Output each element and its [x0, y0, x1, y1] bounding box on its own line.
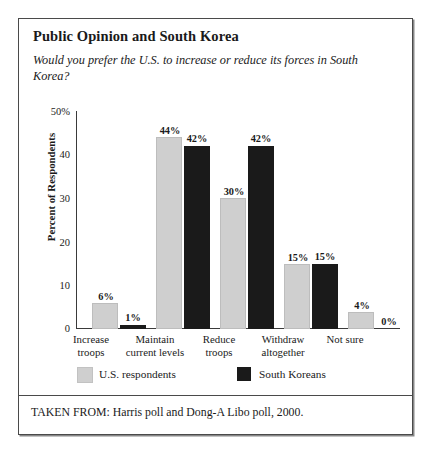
y-tick-label-30: 30	[30, 194, 70, 204]
bar-us-reduce-troops[interactable]: 30%	[220, 198, 246, 329]
category-label-not-sure: Not sure	[297, 333, 393, 346]
bar-value-kr-withdraw-altogether: 15%	[305, 251, 345, 262]
legend-label-us-respondents: U.S. respondents	[99, 367, 176, 381]
y-tick-label-40: 40	[30, 150, 70, 160]
bar-value-kr-reduce-troops: 42%	[241, 133, 281, 144]
figure-panel: Public Opinion and South Korea Would you…	[18, 18, 413, 435]
bar-us-withdraw-altogether[interactable]: 15%	[284, 264, 310, 329]
bar-kr-maintain-current-levels[interactable]: 42%	[184, 146, 210, 329]
bar-value-kr-not-sure: 0%	[369, 316, 409, 327]
bar-kr-reduce-troops[interactable]: 42%	[248, 146, 274, 329]
source-note: TAKEN FROM: Harris poll and Dong-A Libo …	[31, 405, 303, 420]
y-axis-title: Percent of Respondents	[45, 117, 57, 257]
legend-swatch-icon-us-respondents	[77, 367, 93, 383]
bar-kr-withdraw-altogether[interactable]: 15%	[312, 264, 338, 329]
bar-value-us-increase-troops: 6%	[86, 291, 126, 302]
figure-title: Public Opinion and South Korea	[33, 28, 239, 45]
y-tick-label-20: 20	[30, 238, 70, 248]
legend-label-south-koreans: South Koreans	[259, 367, 326, 381]
y-tick-label-50: 50%	[30, 107, 70, 117]
chart-legend: U.S. respondents South Koreans	[77, 366, 377, 386]
bar-value-us-not-sure: 4%	[342, 300, 382, 311]
category-label-line-2: altogether	[235, 346, 331, 359]
bar-us-maintain-current-levels[interactable]: 44%	[156, 137, 182, 329]
bar-value-kr-increase-troops: 1%	[113, 312, 153, 323]
y-tick-label-10: 10	[30, 281, 70, 291]
legend-swatch-icon-south-koreans	[237, 367, 251, 381]
chart-plot-area: Percent of Respondents 50% 40 30 20 10 0…	[33, 97, 400, 357]
figure-subtitle: Would you prefer the U.S. to increase or…	[33, 52, 383, 84]
source-divider	[19, 395, 412, 396]
bar-value-kr-maintain-current-levels: 42%	[177, 133, 217, 144]
bar-kr-increase-troops[interactable]: 1%	[120, 325, 146, 329]
category-label-line-1: Not sure	[297, 333, 393, 346]
bars-layer: 6% 1% 44% 42% 30% 42%	[77, 97, 400, 329]
